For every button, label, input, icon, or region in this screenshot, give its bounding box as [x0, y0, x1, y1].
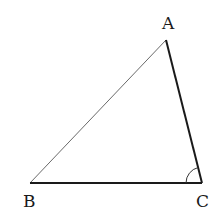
vertex-label-b: B [23, 191, 36, 211]
edge-ab [30, 40, 166, 183]
angle-arc-c [186, 168, 198, 184]
vertex-label-c: C [196, 191, 209, 211]
edge-ac [166, 40, 202, 183]
triangle-svg: A B C [0, 0, 223, 215]
triangle-diagram: A B C [0, 0, 223, 215]
vertex-label-a: A [161, 13, 175, 33]
